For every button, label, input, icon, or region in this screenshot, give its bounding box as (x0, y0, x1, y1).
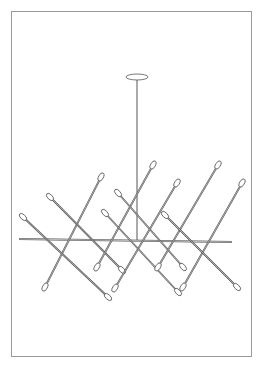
canopy (126, 74, 148, 80)
bulb-icon (111, 283, 120, 293)
bulb-icon (173, 178, 182, 188)
rod-highlight (115, 183, 177, 288)
bulb-icon (238, 178, 247, 188)
rod-highlight (45, 177, 101, 287)
bulb-icon (214, 160, 223, 170)
bulb-icon (179, 282, 188, 292)
bulb-icon (160, 210, 170, 220)
bulb-icon (18, 212, 28, 222)
bulb-icon (93, 262, 102, 272)
bulb-icon (97, 172, 105, 182)
chandelier-drawing (0, 0, 260, 369)
bulb-icon (41, 282, 49, 292)
bulb-icon (103, 292, 113, 302)
rod-highlight (118, 193, 183, 267)
bulb-icon (178, 262, 188, 272)
bulb-icon (113, 188, 123, 198)
bulb-icon (232, 282, 242, 292)
bulb-icon (100, 208, 110, 218)
bulb-icon (45, 192, 55, 202)
bulb-icon (154, 262, 163, 272)
rod-highlight (165, 215, 237, 287)
bulb-icon (149, 160, 158, 170)
rod-highlight (23, 217, 108, 297)
rod-highlight (183, 183, 242, 287)
